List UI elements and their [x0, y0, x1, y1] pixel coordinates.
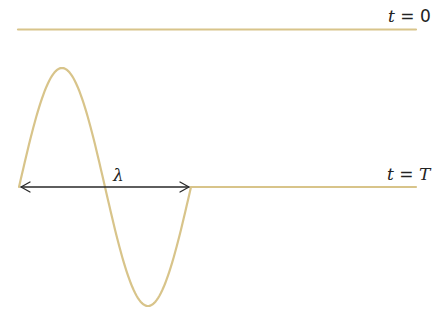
label-tT: t = T — [387, 164, 432, 184]
wavelength-label: λ — [112, 165, 124, 185]
wave-diagram: t = 0 t = T λ — [0, 0, 432, 324]
label-t0: t = 0 — [388, 6, 431, 26]
